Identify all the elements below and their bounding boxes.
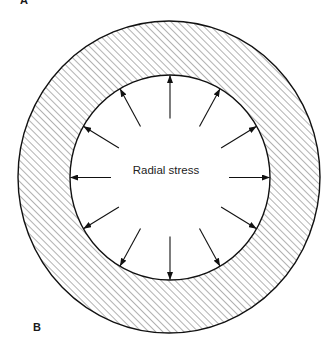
radial-stress-diagram: Radial stress A B (0, 0, 335, 347)
panel-label-b: B (33, 321, 41, 333)
center-label: Radial stress (133, 164, 200, 176)
panel-label-a: A (20, 0, 28, 6)
